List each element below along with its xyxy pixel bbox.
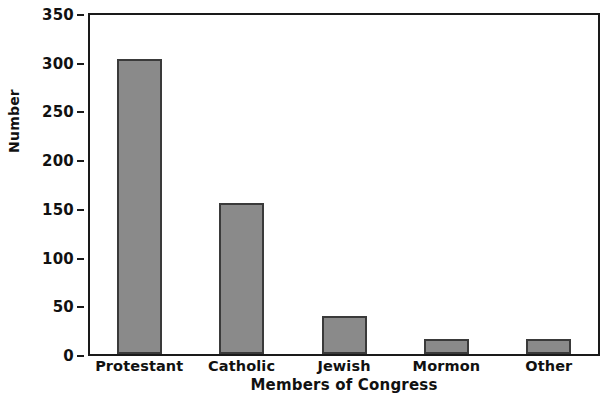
x-axis-tick-label: Catholic	[190, 358, 292, 374]
x-axis-tick-label: Jewish	[293, 358, 395, 374]
x-axis-tick-label: Mormon	[395, 358, 497, 374]
bar	[424, 339, 469, 354]
bar	[526, 339, 571, 354]
y-axis-title: Number	[6, 66, 28, 176]
y-axis-tick-mark	[77, 63, 84, 65]
y-axis-tick-label: 0	[63, 346, 74, 366]
x-axis-tick-label: Other	[498, 358, 600, 374]
y-axis-tick-mark	[77, 355, 84, 357]
y-axis-tick-mark	[77, 209, 84, 211]
y-axis-tick-mark	[77, 258, 84, 260]
y-axis-tick-mark	[77, 111, 84, 113]
y-axis-tick-label: 50	[53, 297, 74, 317]
bars-layer	[88, 13, 600, 356]
y-axis-tick-mark	[77, 160, 84, 162]
x-axis-title: Members of Congress	[88, 376, 600, 394]
y-axis-tick-label: 150	[42, 200, 74, 220]
y-axis-tick-label: 100	[42, 249, 74, 269]
y-axis-tick-mark	[77, 14, 84, 16]
bar	[219, 203, 264, 354]
y-axis-tick-label: 350	[42, 5, 74, 25]
bar	[322, 316, 367, 354]
y-axis-tick-label: 200	[42, 151, 74, 171]
bar	[117, 59, 162, 354]
bar-chart-figure: 050100150200250300350 Number ProtestantC…	[0, 0, 612, 400]
y-axis: 050100150200250300350	[0, 0, 88, 400]
y-axis-tick-label: 250	[42, 102, 74, 122]
y-axis-tick-mark	[77, 306, 84, 308]
x-axis-tick-label: Protestant	[88, 358, 190, 374]
y-axis-tick-label: 300	[42, 54, 74, 74]
